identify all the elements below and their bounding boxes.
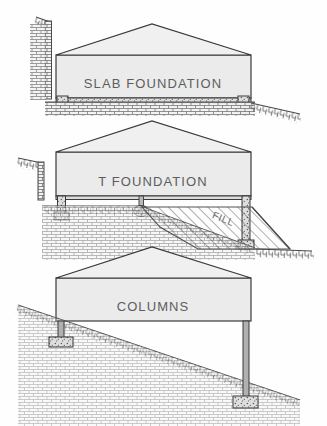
t-cut-face	[38, 162, 44, 200]
slab-foundation-label: SLAB FOUNDATION	[84, 76, 222, 91]
t-floor-beam	[56, 196, 251, 200]
foundation-diagrams-svg: SLAB FOUNDATION	[0, 0, 327, 426]
foundation-figure: SLAB FOUNDATION	[0, 0, 327, 426]
columns-foundation-label: COLUMNS	[117, 299, 190, 314]
slab-left-upper-grade	[30, 17, 52, 100]
columns-footing-left	[49, 337, 73, 347]
columns-footing-right	[233, 396, 258, 408]
t-foundation-label: T FOUNDATION	[98, 174, 208, 189]
slab-subgrade	[45, 102, 255, 116]
